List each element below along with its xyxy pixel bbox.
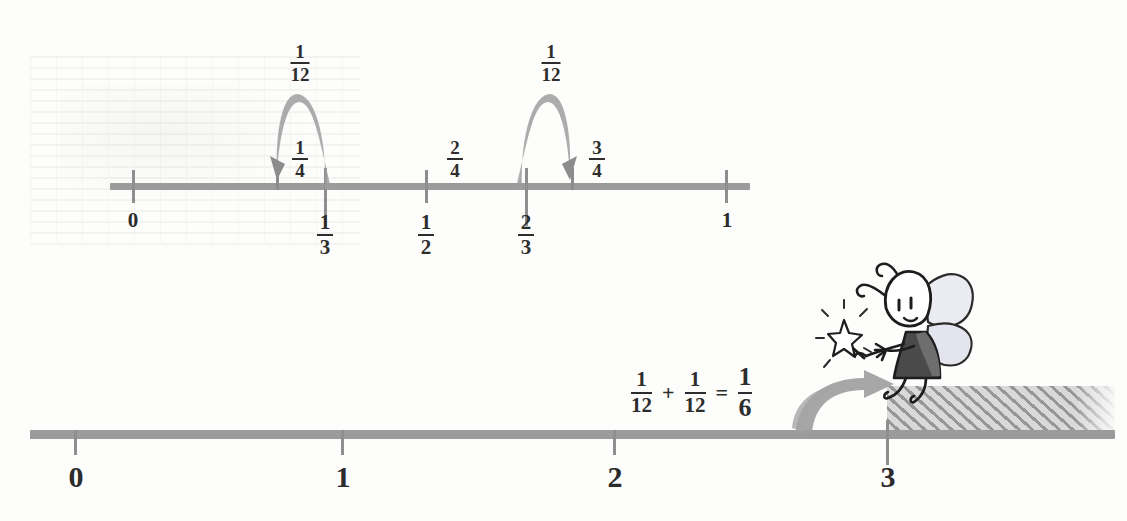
equation-result-denominator: 6 [739, 395, 752, 422]
top-tick-one-half [425, 170, 428, 203]
arc-label-one-twelfth-right: 1 12 [542, 42, 561, 85]
top-label-two-fourths: 2 4 [447, 138, 463, 181]
top-label-one-third-numerator: 1 [320, 212, 331, 233]
top-tick-0 [132, 170, 135, 203]
top-label-1: 1 [722, 210, 733, 231]
arc-label-right-denominator: 12 [542, 65, 561, 84]
top-label-three-fourths: 3 4 [589, 138, 605, 181]
worksheet-figure: 0 1 3 1 2 2 3 1 1 4 2 4 3 [0, 0, 1127, 521]
top-label-one-half: 1 2 [418, 212, 434, 259]
top-number-line-axis [110, 183, 750, 190]
arc-label-left-denominator: 12 [291, 65, 310, 84]
arc-label-left-numerator: 1 [295, 42, 305, 61]
arc-hop-left [265, 80, 345, 192]
equation-plus-sign: + [662, 380, 675, 406]
top-label-two-thirds-denominator: 3 [521, 237, 532, 258]
top-label-two-fourths-denominator: 4 [450, 161, 460, 180]
top-label-two-thirds: 2 3 [518, 212, 534, 259]
equation-result-numerator: 1 [739, 364, 752, 391]
top-label-one-half-numerator: 1 [421, 212, 432, 233]
top-label-0: 0 [128, 210, 139, 231]
equation-term-2-denominator: 12 [685, 395, 706, 416]
bottom-label-0: 0 [69, 462, 84, 492]
bottom-number-line-axis [30, 430, 1115, 439]
top-label-one-third: 1 3 [317, 212, 333, 259]
top-label-one-third-denominator: 3 [320, 237, 331, 258]
equation-term-1: 1 12 [631, 369, 652, 416]
bottom-tick-2 [613, 430, 616, 455]
arc-hop-right [508, 80, 588, 192]
top-label-three-fourths-denominator: 4 [592, 161, 602, 180]
sum-equation: 1 12 + 1 12 = 1 6 [628, 364, 755, 421]
arc-label-right-numerator: 1 [546, 42, 556, 61]
bottom-label-1: 1 [336, 462, 351, 492]
top-label-two-thirds-numerator: 2 [521, 212, 532, 233]
top-label-two-fourths-numerator: 2 [450, 138, 460, 157]
equation-term-2-numerator: 1 [690, 369, 701, 390]
top-label-one-half-denominator: 2 [421, 237, 432, 258]
equation-term-1-numerator: 1 [636, 369, 647, 390]
hatch-fade-mask [1075, 384, 1127, 436]
top-tick-1 [725, 170, 728, 203]
equation-result: 1 6 [738, 364, 752, 421]
top-label-three-fourths-numerator: 3 [592, 138, 602, 157]
fairy-character-illustration [828, 252, 990, 414]
bottom-tick-1 [341, 430, 344, 455]
arc-label-one-twelfth-left: 1 12 [291, 42, 310, 85]
bottom-tick-0 [74, 430, 77, 455]
equation-term-1-denominator: 12 [631, 395, 652, 416]
equation-term-2: 1 12 [685, 369, 706, 416]
bottom-label-2: 2 [608, 462, 623, 492]
equation-equals-sign: = [716, 380, 729, 406]
bottom-label-3: 3 [881, 462, 896, 492]
